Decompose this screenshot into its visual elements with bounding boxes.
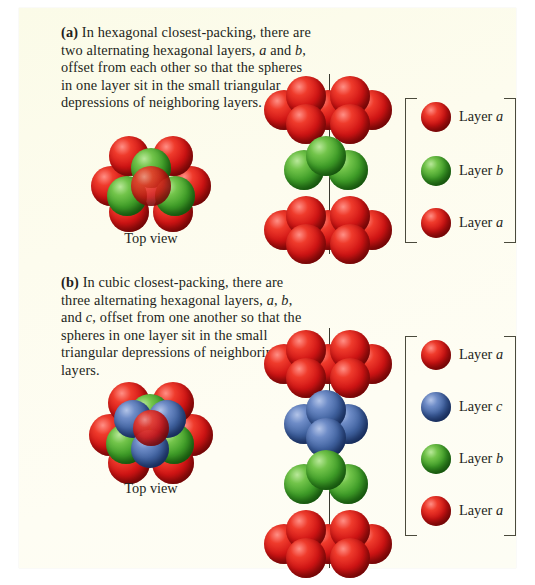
sphere-red [286, 538, 326, 578]
topview-label-b: Top view [71, 480, 231, 497]
caption-a-tag: (a) [61, 24, 78, 40]
panel-hexagonal-closest-packing: (a) In hexagonal closest-packing, there … [19, 8, 516, 270]
legend-label-layer-b: Layer b [459, 162, 503, 179]
layer-stack-a [262, 74, 402, 254]
sphere-green [306, 136, 346, 176]
legend-label-layer-b: Layer b [459, 450, 503, 467]
bracket-right-icon [504, 98, 516, 243]
sphere-red [330, 538, 370, 578]
caption-b-tag: (b) [61, 274, 79, 290]
legend-label-layer-a-top: Layer a [459, 108, 503, 125]
legend-swatch-red [421, 340, 451, 370]
topview-label-a: Top view [71, 230, 231, 247]
legend-swatch-green [421, 156, 451, 186]
legend-swatch-red [421, 102, 451, 132]
figure-panel: (a) In hexagonal closest-packing, there … [19, 8, 516, 568]
legend-swatch-green [421, 444, 451, 474]
legend-swatch-red [421, 208, 451, 238]
legend-swatch-blue [421, 392, 451, 422]
bracket-right-icon [504, 336, 516, 536]
layer-stack-b [262, 328, 402, 568]
bracket-left-icon [405, 98, 417, 243]
sphere-green [306, 450, 346, 490]
legend-label-layer-a-top: Layer a [459, 346, 503, 363]
legend-b: Layer a Layer c Layer b Layer a [405, 336, 515, 536]
topview-cluster-a [81, 136, 221, 228]
legend-a: Layer a Layer b Layer a [405, 98, 515, 243]
sphere-red-center [133, 410, 169, 446]
legend-label-layer-c: Layer c [459, 398, 502, 415]
legend-label-layer-a-bottom: Layer a [459, 214, 503, 231]
topview-cluster-b [81, 384, 221, 476]
legend-label-layer-a-bottom: Layer a [459, 502, 503, 519]
panel-cubic-closest-packing: (b) In cubic closest-packing, there are … [19, 256, 516, 568]
sphere-red-center [131, 166, 171, 206]
legend-swatch-red [421, 496, 451, 526]
bracket-left-icon [405, 336, 417, 536]
